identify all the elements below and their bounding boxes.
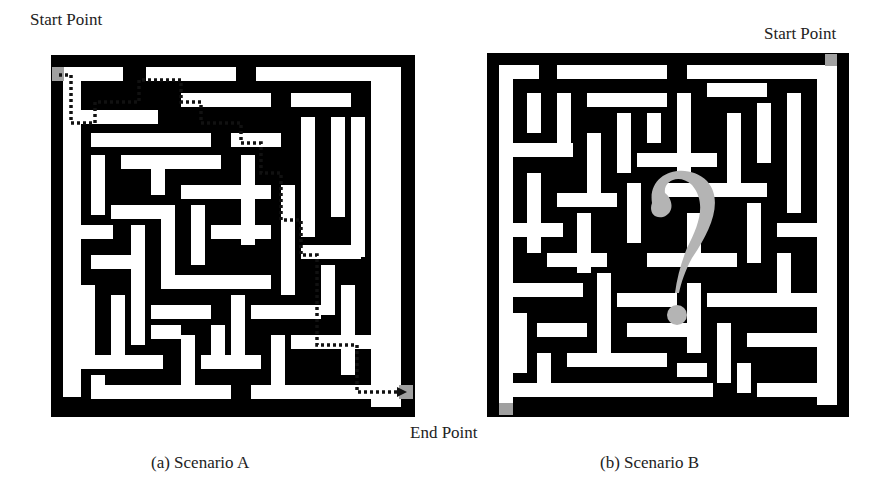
maze-scenario-b — [487, 53, 849, 417]
start-point-label-a: Start Point — [30, 10, 102, 30]
start-marker-b — [825, 54, 837, 66]
start-marker-a — [52, 67, 64, 81]
end-point-label-a: End Point — [410, 423, 478, 443]
end-marker-b — [499, 403, 513, 415]
caption-scenario-a: (a) Scenario A — [151, 453, 249, 473]
start-point-label-b: Start Point — [764, 24, 836, 44]
maze-scenario-a — [51, 55, 415, 417]
caption-scenario-b: (b) Scenario B — [600, 453, 699, 473]
